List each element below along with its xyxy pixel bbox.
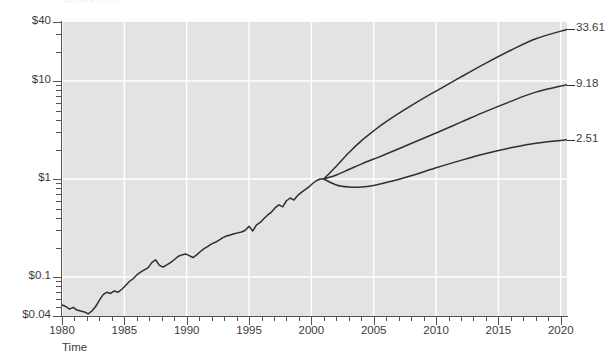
- x-tick-label: 1995: [226, 324, 272, 336]
- x-tick-minor: [162, 316, 163, 321]
- x-tick-minor: [262, 316, 263, 321]
- series-historical-line: [62, 179, 324, 314]
- x-tick-label: 1985: [101, 324, 147, 336]
- x-tick-minor: [336, 316, 337, 321]
- x-axis-title: Time: [62, 341, 87, 353]
- x-tick-minor: [536, 316, 537, 321]
- y-tick-minor: [56, 150, 62, 151]
- x-tick-minor: [99, 316, 100, 321]
- y-tick-minor: [56, 201, 62, 202]
- x-tick-label: 2010: [413, 324, 459, 336]
- gridlines: [62, 22, 567, 316]
- y-tick-label: $1: [1, 171, 51, 183]
- y-tick-minor: [56, 307, 62, 308]
- x-tick-minor: [324, 316, 325, 321]
- y-tick-minor: [56, 188, 62, 189]
- series-projection-line: [324, 140, 567, 187]
- x-tick-minor: [486, 316, 487, 321]
- y-tick-minor: [56, 90, 62, 91]
- y-tick-minor: [56, 132, 62, 133]
- x-tick-minor: [112, 316, 113, 321]
- x-tick-minor: [299, 316, 300, 321]
- y-tick-minor: [56, 248, 62, 249]
- y-tick-label: $40: [1, 14, 51, 26]
- y-tick-major: [53, 316, 62, 317]
- wealth-projection-chart: Figure 10.2 $40$10$1$0.1$0.04 1980198519…: [0, 0, 616, 361]
- x-tick-label: 1980: [39, 324, 85, 336]
- x-tick-minor: [74, 316, 75, 321]
- x-tick-label: 2020: [538, 324, 584, 336]
- y-tick-minor: [56, 103, 62, 104]
- y-tick-minor: [56, 183, 62, 184]
- x-tick-minor: [149, 316, 150, 321]
- plot-area: [62, 22, 567, 316]
- y-tick-major: [53, 22, 62, 23]
- x-tick-minor: [386, 316, 387, 321]
- x-tick-minor: [137, 316, 138, 321]
- y-tick-minor: [56, 209, 62, 210]
- series-projection-line: [324, 29, 567, 179]
- y-tick-minor: [56, 34, 62, 35]
- x-tick-minor: [361, 316, 362, 321]
- x-tick-minor: [274, 316, 275, 321]
- y-tick-major: [53, 277, 62, 278]
- y-tick-minor: [56, 85, 62, 86]
- end-label-leader-line: [567, 140, 575, 141]
- y-tick-minor: [56, 218, 62, 219]
- y-tick-major: [53, 81, 62, 82]
- x-tick-minor: [174, 316, 175, 321]
- x-tick-minor: [199, 316, 200, 321]
- y-tick-label: $0.1: [1, 269, 51, 281]
- x-tick-minor: [349, 316, 350, 321]
- x-tick-minor: [511, 316, 512, 321]
- y-tick-minor: [56, 194, 62, 195]
- x-tick-minor: [548, 316, 549, 321]
- plot-canvas: [62, 22, 567, 316]
- y-tick-minor: [56, 281, 62, 282]
- y-tick-minor: [56, 230, 62, 231]
- y-tick-minor: [56, 299, 62, 300]
- end-label-mid: 9.18: [576, 77, 598, 89]
- y-tick-minor: [56, 120, 62, 121]
- end-label-leader-line: [567, 29, 575, 30]
- y-tick-minor: [56, 111, 62, 112]
- data-series: [62, 29, 567, 314]
- x-tick-minor: [212, 316, 213, 321]
- x-tick-label: 2005: [351, 324, 397, 336]
- x-tick-minor: [411, 316, 412, 321]
- y-tick-major: [53, 179, 62, 180]
- x-tick-minor: [523, 316, 524, 321]
- x-tick-label: 2000: [288, 324, 334, 336]
- end-label-leader-line: [567, 85, 575, 86]
- x-tick-minor: [449, 316, 450, 321]
- x-tick-minor: [286, 316, 287, 321]
- end-label-high: 33.61: [576, 21, 605, 33]
- x-tick-minor: [461, 316, 462, 321]
- y-tick-minor: [56, 96, 62, 97]
- x-tick-label: 2015: [475, 324, 521, 336]
- x-tick-minor: [237, 316, 238, 321]
- y-tick-label: $0.04: [1, 308, 51, 320]
- x-tick-minor: [224, 316, 225, 321]
- x-tick-label: 1990: [164, 324, 210, 336]
- y-tick-minor: [56, 52, 62, 53]
- y-tick-minor: [56, 292, 62, 293]
- cropped-figure-caption: Figure 10.2: [64, 0, 244, 3]
- x-tick-minor: [87, 316, 88, 321]
- x-tick-minor: [473, 316, 474, 321]
- y-tick-label: $10: [1, 73, 51, 85]
- x-tick-minor: [424, 316, 425, 321]
- y-axis-line: [61, 21, 62, 317]
- y-tick-minor: [56, 286, 62, 287]
- x-tick-minor: [399, 316, 400, 321]
- end-label-low: 2.51: [576, 132, 598, 144]
